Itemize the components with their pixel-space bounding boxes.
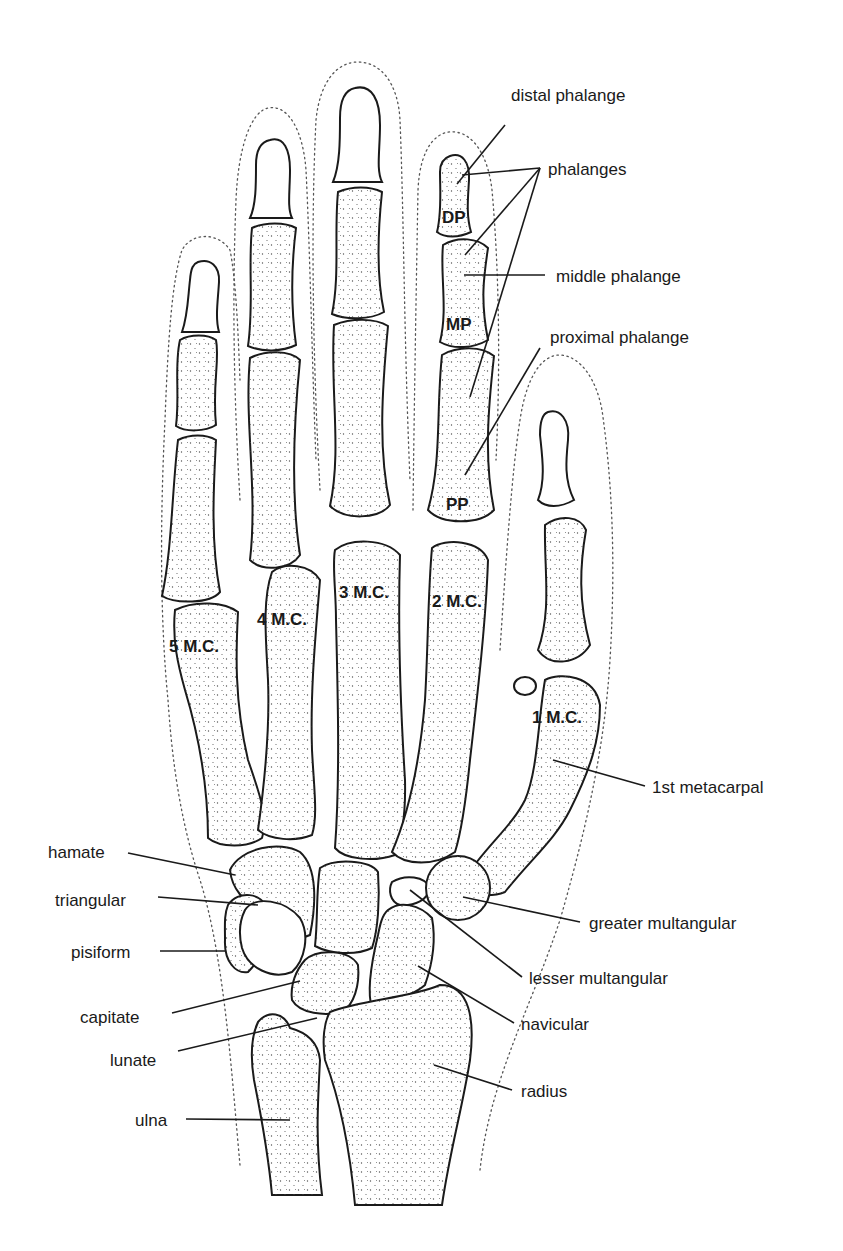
middle-finger-bones (330, 87, 390, 516)
mc5-label: 5 M.C. (169, 637, 219, 656)
mc2-label: 2 M.C. (432, 592, 482, 611)
label-greater-multangular: greater multangular (589, 914, 737, 933)
thumb-bones (514, 411, 590, 695)
ring-finger-bones (248, 139, 300, 567)
forearm-bones (252, 985, 472, 1205)
label-ulna: ulna (135, 1111, 168, 1130)
label-pisiform: pisiform (71, 943, 131, 962)
mc1-label: 1 M.C. (532, 708, 582, 727)
label-lunate: lunate (110, 1051, 156, 1070)
label-capitate: capitate (80, 1008, 140, 1027)
mc4-label: 4 M.C. (257, 610, 307, 629)
label-middle-phalange: middle phalange (556, 267, 681, 286)
pp-label: PP (446, 495, 469, 514)
mp-label: MP (446, 315, 472, 334)
mc3-label: 3 M.C. (339, 583, 389, 602)
label-navicular: navicular (521, 1015, 589, 1034)
label-hamate: hamate (48, 843, 105, 862)
label-radius: radius (521, 1082, 567, 1101)
label-proximal-phalange: proximal phalange (550, 328, 689, 347)
label-first-metacarpal: 1st metacarpal (652, 778, 764, 797)
label-phalanges: phalanges (548, 160, 626, 179)
label-triangular: triangular (55, 891, 126, 910)
label-lesser-multangular: lesser multangular (529, 969, 668, 988)
dp-label: DP (442, 208, 466, 227)
label-distal-phalange: distal phalange (511, 86, 625, 105)
hand-skeleton-diagram: DP MP PP 1 M.C. 2 M.C. 3 M.C. 4 M.C. 5 M… (0, 0, 843, 1251)
